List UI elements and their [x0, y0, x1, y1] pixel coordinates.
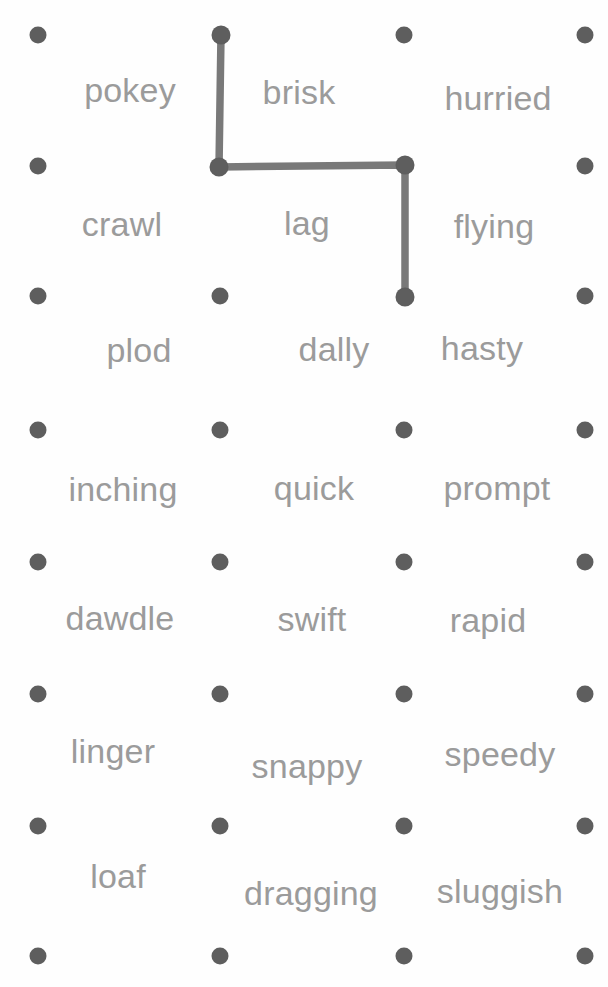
grid-dot[interactable]: [396, 554, 413, 571]
word-label[interactable]: loaf: [90, 859, 146, 893]
grid-dot[interactable]: [212, 554, 229, 571]
word-label[interactable]: dally: [299, 332, 370, 366]
grid-dot[interactable]: [577, 422, 594, 439]
word-label[interactable]: rapid: [450, 603, 527, 637]
grid-dot[interactable]: [577, 158, 594, 175]
word-label[interactable]: quick: [274, 471, 354, 505]
grid-dot[interactable]: [211, 159, 228, 176]
word-label[interactable]: hasty: [441, 331, 523, 365]
word-label[interactable]: plod: [106, 333, 171, 367]
grid-dot[interactable]: [396, 27, 413, 44]
grid-dot[interactable]: [397, 289, 414, 306]
word-label[interactable]: pokey: [84, 73, 176, 107]
word-label[interactable]: dragging: [244, 876, 378, 910]
grid-dot[interactable]: [577, 686, 594, 703]
grid-dot[interactable]: [213, 27, 230, 44]
grid-dot[interactable]: [577, 554, 594, 571]
grid-dot[interactable]: [397, 157, 414, 174]
word-label[interactable]: swift: [278, 602, 347, 636]
grid-dot[interactable]: [212, 948, 229, 965]
grid-dot[interactable]: [30, 422, 47, 439]
grid-dot[interactable]: [577, 948, 594, 965]
grid-dot[interactable]: [577, 818, 594, 835]
grid-dot[interactable]: [212, 288, 229, 305]
grid-dot[interactable]: [396, 686, 413, 703]
word-label[interactable]: snappy: [252, 749, 363, 783]
grid-dot[interactable]: [396, 948, 413, 965]
word-label[interactable]: hurried: [444, 81, 551, 115]
grid-dot[interactable]: [30, 27, 47, 44]
grid-dot[interactable]: [212, 422, 229, 439]
word-label[interactable]: speedy: [445, 737, 556, 771]
word-label[interactable]: crawl: [82, 207, 162, 241]
word-label[interactable]: prompt: [443, 471, 550, 505]
word-label[interactable]: inching: [68, 472, 177, 506]
word-label[interactable]: flying: [454, 209, 535, 243]
word-label[interactable]: linger: [71, 734, 155, 768]
grid-dot[interactable]: [396, 818, 413, 835]
grid-dot[interactable]: [30, 288, 47, 305]
word-label[interactable]: dawdle: [66, 601, 175, 635]
word-label[interactable]: brisk: [263, 75, 336, 109]
word-dot-grid-canvas[interactable]: pokeybriskhurriedcrawllagflyingploddally…: [0, 0, 608, 987]
grid-dot[interactable]: [30, 158, 47, 175]
grid-dot[interactable]: [396, 422, 413, 439]
grid-dot[interactable]: [30, 948, 47, 965]
word-label[interactable]: sluggish: [437, 874, 563, 908]
grid-dot[interactable]: [577, 288, 594, 305]
grid-dot[interactable]: [212, 686, 229, 703]
grid-dot[interactable]: [30, 818, 47, 835]
word-label[interactable]: lag: [284, 206, 330, 240]
grid-dot[interactable]: [577, 27, 594, 44]
grid-dot[interactable]: [30, 554, 47, 571]
grid-dot[interactable]: [30, 686, 47, 703]
grid-dot[interactable]: [212, 818, 229, 835]
